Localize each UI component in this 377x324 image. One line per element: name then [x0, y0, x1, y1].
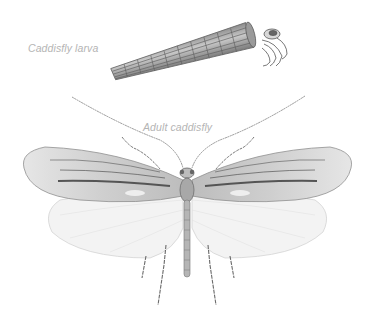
adult-figure	[23, 96, 351, 305]
illustration	[0, 0, 377, 324]
larva-figure	[108, 21, 287, 82]
abdomen	[184, 200, 190, 277]
larva-head	[262, 29, 287, 66]
forewing-left	[23, 147, 183, 202]
thorax	[180, 178, 194, 202]
forewing-right	[192, 147, 352, 202]
